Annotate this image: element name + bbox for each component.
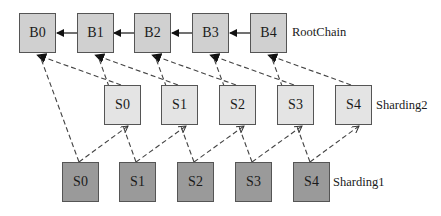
sharding2-block-s1: S1 [161, 85, 198, 125]
sharding2-block-s3: S3 [277, 85, 314, 125]
root-block-b2: B2 [134, 13, 171, 53]
sharding1-block-s0: S0 [62, 162, 99, 202]
root-block-b3: B3 [192, 13, 229, 53]
sharding1-block-s4: S4 [293, 162, 330, 202]
sharding1-label: Sharding1 [333, 175, 384, 190]
sharding1-block-s2: S2 [177, 162, 214, 202]
root-block-b4: B4 [250, 13, 287, 53]
sharding1-block-s3: S3 [235, 162, 272, 202]
sharding2-label: Sharding2 [376, 98, 427, 113]
sharding1-block-s1: S1 [119, 162, 156, 202]
root-block-b1: B1 [77, 13, 114, 53]
root-chain-label: RootChain [292, 25, 346, 40]
root-block-b0: B0 [19, 13, 56, 53]
sharding2-block-s0: S0 [104, 85, 141, 125]
sharding2-block-s2: S2 [219, 85, 256, 125]
sharding2-block-s4: S4 [335, 85, 372, 125]
sharding-diagram: B0 B1 B2 B3 B4 RootChain S0 S1 S2 S3 S4 … [0, 0, 441, 216]
